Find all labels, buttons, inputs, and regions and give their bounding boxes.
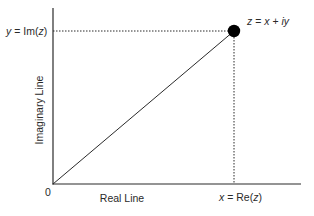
point-z-label: z = x + iy bbox=[246, 15, 290, 27]
x-projection-label: x = Re(z) bbox=[218, 191, 262, 203]
y-projection-label: y = Im(z) bbox=[5, 25, 47, 37]
imaginary-axis-title: Imaginary Line bbox=[33, 75, 45, 144]
origin-label: 0 bbox=[45, 186, 51, 198]
point-z-marker bbox=[228, 25, 240, 37]
vector-line bbox=[53, 31, 234, 184]
real-axis-title: Real Line bbox=[100, 192, 145, 204]
complex-plane-diagram: z = x + iy y = Im(z) x = Re(z) 0 Real Li… bbox=[0, 0, 314, 216]
